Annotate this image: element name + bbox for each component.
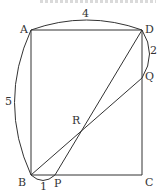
clipped-text-line [40,0,156,3]
measure-DQ: 2 [150,44,157,57]
arc-AD [31,20,142,30]
label-Q: Q [145,70,154,83]
measure-BP: 1 [40,180,47,191]
measure-AD: 4 [82,7,89,20]
measure-AB: 5 [5,95,12,108]
label-A: A [19,23,29,36]
arc-AB [15,30,32,175]
label-B: B [18,176,26,189]
label-C: C [145,176,153,189]
segment-BQ [31,78,142,175]
geometry-figure: A D Q R B P C 4 5 2 1 [0,0,158,191]
figure-canvas: A D Q R B P C 4 5 2 1 [0,0,158,191]
label-D: D [145,23,154,36]
segment-PD [55,30,142,175]
label-P: P [54,177,62,190]
label-R: R [72,114,81,127]
